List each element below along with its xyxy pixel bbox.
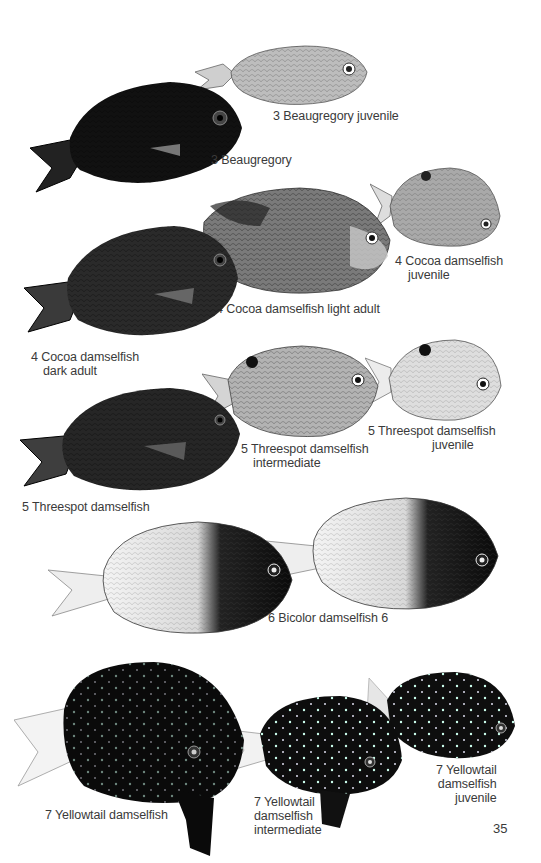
threespot-juvenile-illustration bbox=[365, 338, 503, 424]
caption-cocoa-juvenile: 4 Cocoa damselfish juvenile bbox=[395, 254, 503, 282]
caption-threespot-juvenile: 5 Threespot damselfish juvenile bbox=[368, 424, 496, 452]
beaugregory-illustration bbox=[30, 78, 245, 196]
caption-bicolor: 6 Bicolor damselfish 6 bbox=[268, 611, 388, 625]
caption-threespot-intermediate: 5 Threespot damselfish intermediate bbox=[241, 442, 369, 470]
caption-cocoa-dark-adult: 4 Cocoa damselfish dark adult bbox=[31, 350, 139, 378]
caption-yellowtail-juvenile: 7 Yellowtail damselfish juvenile bbox=[434, 763, 497, 805]
caption-beaugregory-juvenile: 3 Beaugregory juvenile bbox=[273, 109, 399, 123]
cocoa-dark-adult-illustration bbox=[24, 222, 242, 346]
threespot-illustration bbox=[20, 386, 242, 498]
page-number: 35 bbox=[493, 821, 507, 836]
yellowtail-illustration bbox=[14, 660, 246, 860]
caption-threespot: 5 Threespot damselfish bbox=[22, 500, 150, 514]
caption-yellowtail-intermediate: 7 Yellowtail damselfish intermediate bbox=[254, 795, 322, 837]
caption-yellowtail: 7 Yellowtail damselfish bbox=[45, 808, 170, 822]
bicolor-illustration-left bbox=[48, 520, 294, 638]
caption-beaugregory: 3 Beaugregory bbox=[211, 153, 292, 167]
